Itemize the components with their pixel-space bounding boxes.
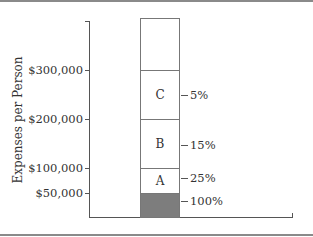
y-tick-200000 <box>85 119 90 120</box>
percent-label-a: 25% <box>190 172 216 184</box>
y-tick-50000 <box>85 193 90 194</box>
y-tick-label: $50,000 <box>35 187 83 199</box>
bar-segment-b: B <box>140 119 180 169</box>
bar-segment-top <box>140 18 180 71</box>
bar-segment-a: A <box>140 168 180 194</box>
y-axis-title: Expenses per Person <box>11 56 25 183</box>
percent-leader <box>181 178 188 179</box>
bar-segment-c: C <box>140 70 180 120</box>
segment-label: B <box>156 137 165 151</box>
segment-label: C <box>155 88 164 102</box>
percent-label-c: 5% <box>190 89 208 101</box>
percent-label-base: 100% <box>190 195 223 207</box>
percent-leader <box>181 201 188 202</box>
y-tick-300000 <box>85 70 90 71</box>
bottom-rule <box>0 234 313 236</box>
y-tick-label: $200,000 <box>28 113 83 125</box>
y-tick-100000 <box>85 168 90 169</box>
y-tick-top <box>85 21 90 22</box>
x-axis-end-tick <box>292 213 293 218</box>
y-tick-label: $100,000 <box>28 162 83 174</box>
x-axis <box>89 217 293 218</box>
top-rule <box>0 0 313 2</box>
percent-leader <box>181 95 188 96</box>
segment-label: A <box>156 174 165 188</box>
bar-segment-base <box>140 193 180 218</box>
percent-leader <box>181 145 188 146</box>
y-tick-label: $300,000 <box>28 64 83 76</box>
percent-label-b: 15% <box>190 139 216 151</box>
